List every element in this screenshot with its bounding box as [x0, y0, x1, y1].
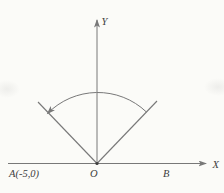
point-b-label: B	[163, 168, 170, 179]
geometry-figure: Y X A(-5,0) O B	[0, 0, 224, 193]
x-axis-label: X	[212, 159, 220, 170]
sector-left-ray	[38, 102, 97, 164]
origin-label: O	[90, 168, 98, 179]
origin-point	[95, 162, 98, 165]
y-axis-label: Y	[102, 16, 109, 27]
point-a-label: A(-5,0)	[8, 168, 40, 180]
sector-right-ray	[97, 101, 157, 164]
coordinate-diagram: Y X A(-5,0) O B	[0, 0, 224, 193]
